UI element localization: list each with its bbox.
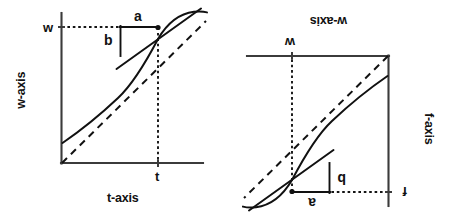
- triangle-run-label-a: a: [134, 9, 142, 23]
- x-axis-title: w-axis: [310, 15, 347, 28]
- x-tick-label-w: w: [285, 36, 295, 49]
- y-tick-label-w: w: [43, 21, 53, 34]
- figure-root: w t a b t-axis w-axis f w: [0, 0, 450, 219]
- panel-left: w t a b t-axis w-axis: [0, 0, 225, 219]
- tangency-point-dot: [155, 25, 160, 30]
- secant-dashed-line: [244, 56, 388, 198]
- triangle-rise-label-b: b: [337, 172, 346, 186]
- x-axis-title: t-axis: [107, 192, 138, 205]
- tangency-point-dot: [289, 189, 294, 194]
- concave-curve: [63, 12, 208, 143]
- panel-right: f w a b w-axis f-axis: [225, 0, 450, 219]
- triangle-run-label-a: a: [308, 196, 316, 210]
- secant-dashed-line: [62, 21, 206, 163]
- y-axis-title: w-axis: [15, 68, 28, 112]
- y-tick-label-f: f: [403, 185, 407, 198]
- y-axis-title: f-axis: [423, 107, 436, 151]
- triangle-rise-label-b: b: [104, 33, 113, 47]
- convex-curve: [243, 76, 388, 207]
- x-tick-label-t: t: [155, 170, 159, 183]
